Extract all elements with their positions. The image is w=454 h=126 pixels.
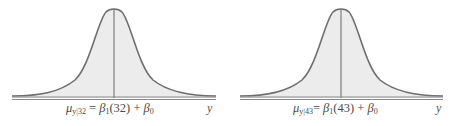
plus-sign: +	[133, 101, 140, 115]
plus-sign: +	[357, 101, 364, 115]
equals-sign: =	[313, 101, 320, 115]
normal-curve-panel-left: μy|32 = β1(32) + β0 y	[0, 0, 227, 126]
mu-subscript: y|32	[72, 107, 86, 116]
mean-equation-label: μy|43= β1(43) + β0	[293, 101, 378, 116]
mean-equation-label: μy|32 = β1(32) + β0	[66, 101, 154, 116]
x-value-argument: (43)	[333, 101, 354, 115]
beta0-subscript: 0	[150, 107, 154, 116]
x-value-argument: (32)	[109, 101, 130, 115]
beta0-subscript: 0	[374, 107, 378, 116]
equals-sign: =	[89, 101, 96, 115]
mu-subscript: y|43	[299, 107, 313, 116]
normal-curve-panel-right: μy|43= β1(43) + β0 y	[227, 0, 454, 126]
y-axis-label: y	[207, 101, 212, 116]
y-axis-label: y	[436, 101, 441, 116]
